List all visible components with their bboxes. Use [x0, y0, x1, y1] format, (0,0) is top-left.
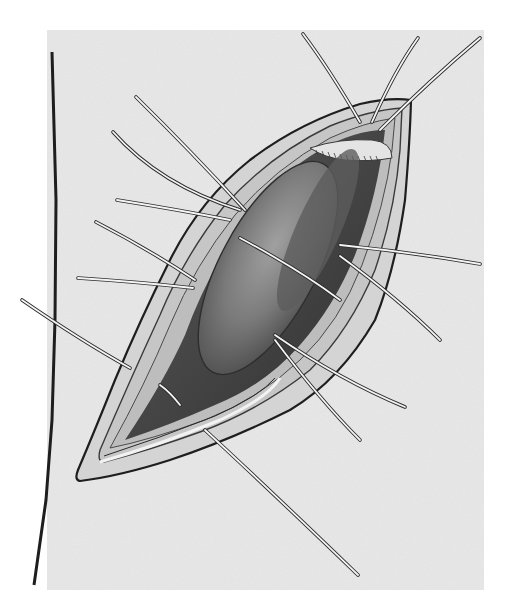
surgical-illustration: Grayscale surgical illustration of an el… [0, 0, 506, 609]
illustration-svg [0, 0, 506, 609]
